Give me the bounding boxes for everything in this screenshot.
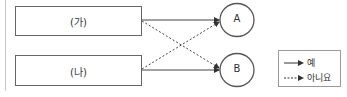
legend-yes: 예 (284, 56, 315, 69)
legend-no-label: 아니요 (307, 71, 331, 84)
legend-no: 아니요 (284, 71, 331, 84)
edge-ga-b-no (142, 21, 219, 68)
legend-yes-label: 예 (307, 56, 315, 69)
box-ga-label: (가) (15, 14, 142, 29)
edge-na-a-no (142, 22, 219, 69)
box-na-label: (나) (15, 64, 142, 79)
legend: 예 아니요 (278, 50, 341, 87)
node-a-label: A (220, 13, 254, 24)
dashed-arrow-icon (284, 74, 304, 82)
node-b-label: B (220, 63, 254, 74)
solid-arrow-icon (284, 59, 304, 67)
